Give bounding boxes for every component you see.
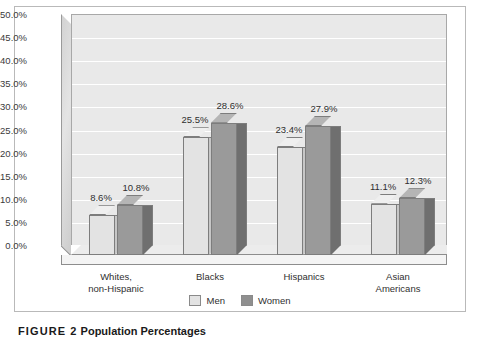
gridline — [72, 107, 446, 108]
legend-item-men[interactable]: Men — [189, 295, 224, 306]
y-axis-tick-label: 0.0% — [0, 240, 27, 251]
bar-side — [237, 123, 247, 255]
bar-value-label: 27.9% — [301, 103, 347, 114]
gridline — [72, 177, 446, 178]
gridline — [72, 61, 446, 62]
bar-face — [399, 198, 425, 255]
y-axis-tick-label: 10.0% — [0, 193, 27, 204]
bar-women-1 — [211, 123, 237, 255]
legend-swatch-women — [241, 295, 253, 306]
y-axis-tick-label: 30.0% — [0, 101, 27, 112]
bar-men-0 — [89, 215, 115, 255]
y-axis-tick-label: 35.0% — [0, 78, 27, 89]
axis-side-wall — [61, 14, 71, 255]
y-axis-tick-label: 40.0% — [0, 55, 27, 66]
bar-face — [211, 123, 237, 255]
gridline — [72, 154, 446, 155]
bar-value-label: 12.3% — [395, 175, 441, 186]
gridline — [72, 84, 446, 85]
legend-swatch-men — [189, 295, 201, 306]
bar-women-0 — [117, 205, 143, 255]
bar-face — [305, 126, 331, 255]
bar-men-3 — [371, 204, 397, 255]
legend-label: Women — [258, 295, 291, 306]
bar-face — [89, 215, 115, 255]
bar-side — [331, 126, 341, 255]
caption-label: FIGURE 2 — [18, 325, 78, 337]
figure-frame: 50.0%45.0%40.0%35.0%30.0%25.0%20.0%15.0%… — [14, 6, 466, 312]
gridline — [72, 38, 446, 39]
y-axis-tick-label: 45.0% — [0, 32, 27, 43]
bar-face — [277, 147, 303, 255]
y-axis-tick-label: 25.0% — [0, 124, 27, 135]
legend-item-women[interactable]: Women — [241, 295, 291, 306]
bar-value-label: 10.8% — [113, 182, 159, 193]
bar-face — [371, 204, 397, 255]
y-axis-tick-label: 50.0% — [0, 9, 27, 20]
y-axis-tick-label: 15.0% — [0, 170, 27, 181]
category-label: AsianAmericans — [343, 271, 453, 295]
bar-women-2 — [305, 126, 331, 255]
bar-women-3 — [399, 198, 425, 255]
bar-value-label: 28.6% — [207, 100, 253, 111]
chart-plot-area: 50.0%45.0%40.0%35.0%30.0%25.0%20.0%15.0%… — [15, 7, 465, 311]
floor-front-edge — [61, 255, 447, 265]
figure-caption: FIGURE 2 Population Percentages — [18, 325, 206, 337]
y-axis-tick-label: 20.0% — [0, 147, 27, 158]
bar-face — [117, 205, 143, 255]
legend-label: Men — [206, 295, 224, 306]
caption-text: Population Percentages — [81, 325, 206, 337]
y-axis-tick-label: 5.0% — [0, 216, 27, 227]
bar-men-2 — [277, 147, 303, 255]
chart-legend: MenWomen — [15, 295, 465, 306]
bar-side — [425, 198, 435, 255]
bar-face — [183, 137, 209, 255]
bar-value-label: 8.6% — [78, 192, 124, 203]
bar-men-1 — [183, 137, 209, 255]
gridline — [72, 131, 446, 132]
